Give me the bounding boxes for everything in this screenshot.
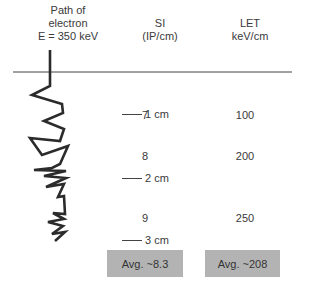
let-value-row1: 100: [225, 109, 265, 121]
scale-tick: [122, 178, 142, 179]
scale-label: 3 cm: [145, 234, 169, 246]
path-header: Path of electron E = 350 keV: [28, 4, 108, 43]
scale-tick: [122, 114, 142, 115]
let-value-row3: 250: [225, 212, 265, 224]
let-value-row2: 200: [225, 150, 265, 162]
si-header-line1: SI: [130, 17, 190, 30]
scale-tick: [122, 240, 142, 241]
path-header-line3: E = 350 keV: [28, 30, 108, 43]
si-header-line2: (IP/cm): [130, 30, 190, 43]
electron-path: [30, 50, 68, 241]
si-average-box: Avg. ~8.3: [107, 250, 183, 277]
let-average-box: Avg. ~208: [205, 250, 280, 277]
scale-marker-3cm: 3 cm: [122, 234, 169, 246]
si-value-row2: 8: [125, 150, 165, 162]
let-header-line2: keV/cm: [220, 30, 280, 43]
scale-label: 1 cm: [145, 108, 169, 120]
path-header-line2: electron: [28, 17, 108, 30]
let-header-line1: LET: [220, 17, 280, 30]
path-header-line1: Path of: [28, 4, 108, 17]
si-header: SI (IP/cm): [130, 17, 190, 43]
scale-marker-1cm: 1 cm: [122, 108, 169, 120]
scale-marker-2cm: 2 cm: [122, 172, 169, 184]
scale-label: 2 cm: [145, 172, 169, 184]
si-value-row3: 9: [125, 212, 165, 224]
let-header: LET keV/cm: [220, 17, 280, 43]
